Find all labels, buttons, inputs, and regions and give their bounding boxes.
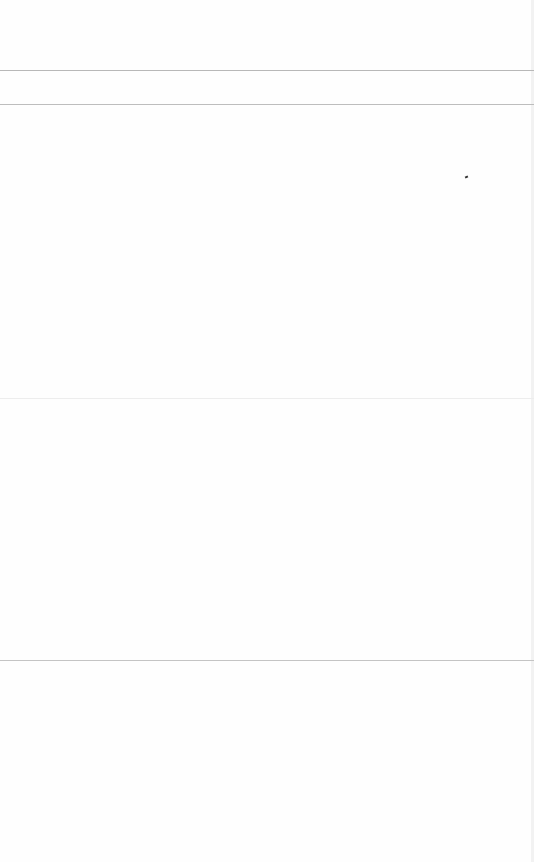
ink-speck: [465, 175, 469, 178]
divider-line-4: [0, 660, 534, 661]
divider-line-2: [0, 104, 534, 105]
divider-line-1: [0, 70, 534, 71]
blank-page: [0, 0, 534, 862]
divider-line-3: [0, 398, 534, 399]
